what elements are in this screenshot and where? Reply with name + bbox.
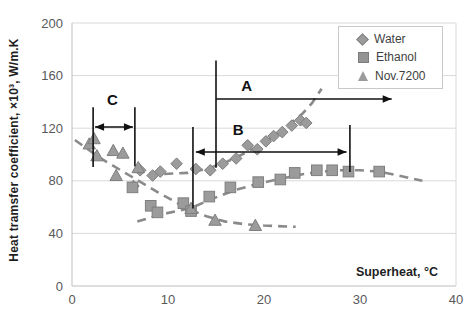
svg-text:40: 40	[449, 292, 463, 307]
x-axis-label: Superheat, °C	[356, 265, 438, 279]
svg-text:0: 0	[68, 292, 75, 307]
data-point	[127, 182, 138, 193]
svg-text:120: 120	[41, 121, 63, 136]
data-point	[110, 169, 122, 180]
svg-text:0: 0	[56, 279, 63, 294]
data-point	[225, 182, 236, 193]
svg-text:80: 80	[49, 173, 63, 188]
data-point	[275, 174, 286, 185]
legend: Water Ethanol Nov.7200	[338, 26, 443, 89]
arrow-head-right-icon	[383, 95, 392, 103]
arrow-head-right-icon	[338, 148, 347, 156]
arrow-head-left-icon	[95, 123, 104, 131]
data-point	[107, 144, 119, 155]
data-point	[289, 168, 300, 179]
data-point	[190, 163, 202, 175]
arrow-head-right-icon	[124, 123, 133, 131]
trendline-water	[134, 89, 321, 174]
data-point	[327, 165, 338, 176]
annotation-label-a: A	[241, 77, 252, 94]
svg-text:10: 10	[161, 292, 175, 307]
legend-item-nov7200: Nov.7200	[358, 67, 442, 85]
annotation-label-b: B	[233, 121, 244, 138]
data-point	[374, 166, 385, 177]
chart-figure: 04080120160200010203040ABC Heat tramsfer…	[0, 0, 475, 326]
y-axis-label: Heat tramsfer coefficient, ×10³, W/m.K	[7, 38, 21, 261]
data-point	[117, 147, 129, 158]
triangle-marker-icon	[358, 71, 368, 81]
arrow-head-left-icon	[196, 148, 205, 156]
data-point	[171, 158, 183, 170]
legend-label-ethanol: Ethanol	[376, 50, 417, 64]
square-marker-icon	[358, 52, 369, 63]
data-point	[204, 191, 215, 202]
svg-text:20: 20	[257, 292, 271, 307]
data-point	[217, 158, 229, 170]
series-nov.7200	[83, 133, 261, 231]
svg-text:200: 200	[41, 16, 63, 31]
legend-item-ethanol: Ethanol	[358, 48, 442, 66]
legend-item-water: Water	[358, 30, 442, 48]
legend-label-water: Water	[374, 32, 406, 46]
data-point	[343, 166, 354, 177]
legend-label-nov7200: Nov.7200	[375, 69, 425, 83]
annotation-label-c: C	[107, 91, 118, 108]
svg-text:30: 30	[353, 292, 367, 307]
svg-text:160: 160	[41, 68, 63, 83]
data-point	[152, 207, 163, 218]
data-point	[253, 177, 264, 188]
diamond-marker-icon	[356, 33, 369, 46]
data-point	[312, 165, 323, 176]
svg-text:40: 40	[49, 226, 63, 241]
